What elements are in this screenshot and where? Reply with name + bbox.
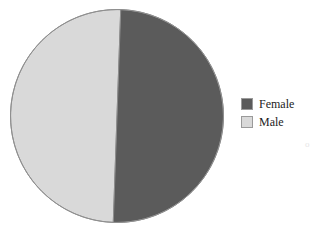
pie-chart-figure: Female Male o	[0, 0, 326, 234]
legend-item-female[interactable]: Female	[241, 95, 323, 113]
pie-chart-svg	[10, 9, 224, 223]
legend-swatch-male	[241, 116, 253, 128]
legend-item-male[interactable]: Male	[241, 113, 323, 131]
legend-label-male: Male	[259, 116, 284, 129]
legend-swatch-female	[241, 98, 253, 110]
chart-legend: Female Male	[241, 95, 323, 131]
pie-chart-plot-area	[10, 9, 224, 223]
scan-artifact-mark: o	[305, 140, 312, 148]
pie-slice-male[interactable]	[10, 9, 120, 222]
legend-label-female: Female	[259, 98, 294, 111]
pie-slice-female[interactable]	[113, 10, 223, 223]
